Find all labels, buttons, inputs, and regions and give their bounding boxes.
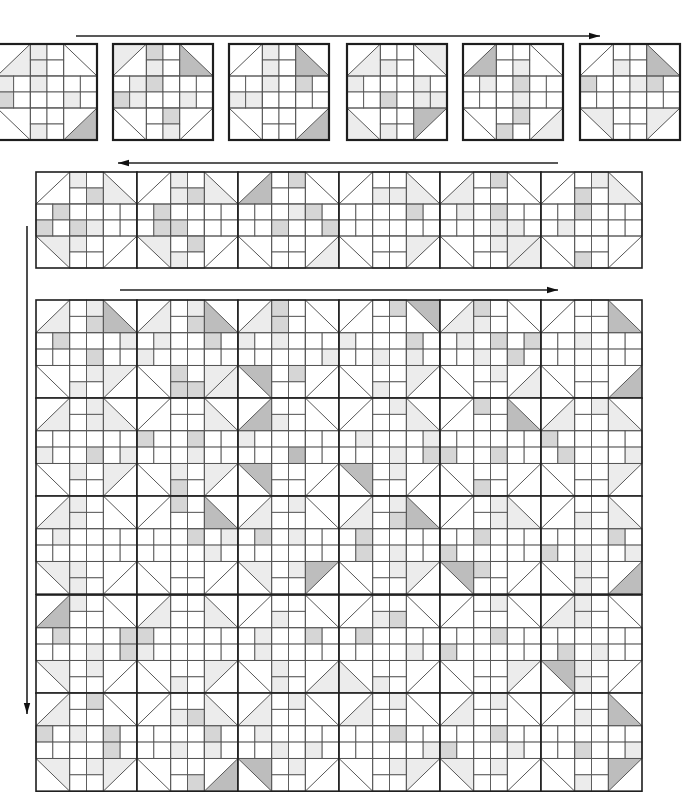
arrowhead-icon [24, 703, 30, 714]
arrowhead-icon [589, 33, 600, 39]
arrowhead-icon [118, 160, 129, 166]
arrowhead-icon [547, 287, 558, 293]
assembly-arrows [0, 0, 685, 812]
quilt-assembly-diagram [0, 0, 685, 812]
